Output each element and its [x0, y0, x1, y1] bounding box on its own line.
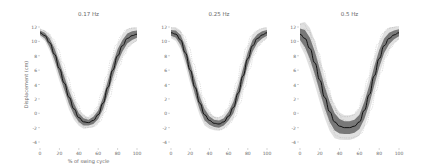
y-tick-label: 0	[293, 111, 296, 116]
chart-title: 0.5 Hz	[341, 11, 359, 17]
y-tick-label: -4	[292, 140, 297, 145]
y-tick-label: 10	[290, 39, 296, 44]
chart-svg: 0.5 Hz121086420-2-4020406080100	[259, 0, 409, 168]
y-tick-label: 10	[31, 39, 37, 44]
x-tick-label: 80	[115, 151, 121, 156]
x-tick-label: 60	[95, 151, 101, 156]
x-tick-label: 100	[395, 151, 404, 156]
y-tick-label: -2	[163, 126, 168, 131]
y-tick-label: -4	[163, 140, 168, 145]
panel-0-17hz: 0.17 Hz121086420-2-4020406080100% of swi…	[0, 0, 144, 168]
chart-svg: 0.25 Hz121086420-2-4020406080100	[130, 0, 274, 168]
x-tick-label: 80	[376, 151, 382, 156]
x-tick-label: 60	[357, 151, 363, 156]
y-tick-label: 12	[290, 25, 296, 30]
y-tick-label: -2	[33, 126, 38, 131]
x-tick-label: 60	[226, 151, 232, 156]
y-tick-label: 0	[34, 111, 37, 116]
y-tick-label: 10	[161, 39, 167, 44]
y-tick-label: 8	[293, 54, 296, 59]
y-tick-label: 8	[34, 54, 37, 59]
x-tick-label: 20	[317, 151, 323, 156]
x-axis-label: % of swing cycle	[68, 158, 110, 165]
y-tick-label: 4	[34, 83, 37, 88]
panel-0-25hz: 0.25 Hz121086420-2-4020406080100	[130, 0, 274, 168]
y-tick-label: 4	[293, 83, 296, 88]
x-tick-label: 80	[245, 151, 251, 156]
y-tick-label: 4	[164, 83, 167, 88]
y-tick-label: 6	[164, 68, 167, 73]
y-tick-label: 2	[293, 97, 296, 102]
y-axis-label: Displacement (cm)	[23, 61, 30, 109]
chart-title: 0.17 Hz	[78, 11, 99, 17]
y-tick-label: 6	[293, 68, 296, 73]
x-tick-label: 20	[57, 151, 63, 156]
y-tick-label: 6	[34, 68, 37, 73]
y-tick-label: 12	[161, 25, 167, 30]
x-tick-label: 0	[299, 151, 302, 156]
x-tick-label: 20	[187, 151, 193, 156]
y-tick-label: 2	[34, 97, 37, 102]
x-tick-label: 40	[337, 151, 343, 156]
x-tick-label: 0	[39, 151, 42, 156]
y-tick-label: -4	[33, 140, 38, 145]
y-tick-label: 0	[164, 111, 167, 116]
y-tick-label: 2	[164, 97, 167, 102]
x-tick-label: 0	[170, 151, 173, 156]
y-tick-label: -2	[292, 126, 297, 131]
chart-svg: 0.17 Hz121086420-2-4020406080100% of swi…	[0, 0, 144, 168]
panel-0-5hz: 0.5 Hz121086420-2-4020406080100	[259, 0, 409, 168]
y-tick-label: 8	[164, 54, 167, 59]
chart-title: 0.25 Hz	[208, 11, 229, 17]
x-tick-label: 40	[207, 151, 213, 156]
x-tick-label: 40	[76, 151, 82, 156]
y-tick-label: 12	[31, 25, 37, 30]
